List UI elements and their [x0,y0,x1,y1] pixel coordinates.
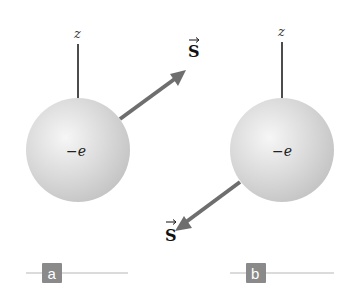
charge-label: −e [66,143,86,159]
panel-label-a: a [26,263,128,283]
svg-text:S: S [165,226,177,245]
z-axis-label: z [73,26,81,41]
spin-vector-label: S [188,38,200,62]
badge-letter: a [48,265,57,282]
panel-label-b: b [230,263,334,283]
spin-vector-label: S [165,220,177,246]
spin-arrow-shaft [186,182,240,222]
spin-arrow-head-icon [170,70,186,86]
z-axis-label: z [277,24,285,39]
badge-letter: b [251,265,259,282]
charge-label: −e [272,143,292,159]
electron-spin-diagram: z −e S a z −e S b [0,0,352,305]
panel-b: z −e S b [165,24,334,283]
spin-arrow-shaft [120,78,176,119]
svg-text:S: S [188,42,200,61]
